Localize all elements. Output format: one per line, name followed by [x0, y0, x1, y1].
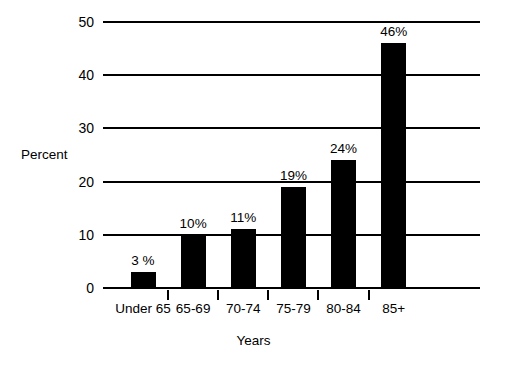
y-tick-label-0: 0: [54, 281, 94, 295]
x-axis-title: Years: [0, 332, 507, 350]
bar-value-label-85-: 46%: [364, 24, 424, 39]
y-tick-label-40: 40: [54, 68, 94, 82]
bar-value-label-70-74: 11%: [213, 210, 273, 225]
y-tick-label-50: 50: [54, 15, 94, 29]
x-tick-label-85-: 85+: [356, 300, 432, 318]
bar-value-label-80-84: 24%: [314, 141, 374, 156]
bar-value-label-under-65: 3 %: [113, 253, 173, 268]
y-tick-label-20: 20: [54, 175, 94, 189]
x-axis-ticks: [103, 290, 480, 300]
bar-75-79[interactable]: [281, 187, 306, 288]
bar-value-label-75-79: 19%: [263, 168, 323, 183]
y-tick-label-10: 10: [54, 228, 94, 242]
bar-85-[interactable]: [381, 43, 406, 288]
plot-area: 3 %10%11%19%24%46%: [103, 22, 480, 288]
bar-under-65[interactable]: [131, 272, 156, 288]
x-axis-tick-1: [217, 290, 219, 300]
y-axis-title: Percent: [21, 147, 68, 163]
bar-70-74[interactable]: [231, 229, 256, 288]
bar-chart-figure: 01020304050 Percent 3 %10%11%19%24%46% U…: [0, 0, 507, 366]
x-axis-tick-labels: Under 6565-6970-7475-7980-8485+: [103, 300, 480, 322]
x-axis-tick-0: [167, 290, 169, 300]
gridline-40: [103, 74, 480, 76]
bar-65-69[interactable]: [181, 235, 206, 288]
y-tick-label-30: 30: [54, 121, 94, 135]
gridline-50: [103, 21, 480, 23]
x-axis-tick-2: [267, 290, 269, 300]
gridline-30: [103, 127, 480, 129]
x-axis-tick-4: [368, 290, 370, 300]
x-axis-tick-3: [317, 290, 319, 300]
y-axis-tick-labels: 01020304050: [48, 0, 94, 366]
bar-80-84[interactable]: [331, 160, 356, 288]
